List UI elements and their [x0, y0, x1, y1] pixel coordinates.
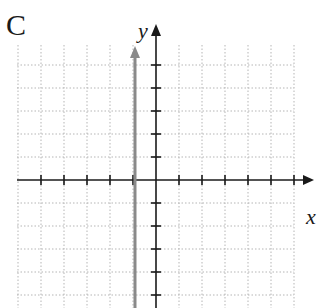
y-axis-arrow-icon: [151, 24, 161, 36]
axes: [17, 24, 314, 308]
coordinate-plane: [0, 0, 322, 308]
panel-label: C: [6, 10, 26, 40]
x-axis-arrow-icon: [303, 175, 314, 185]
plotted-line: [130, 46, 140, 308]
y-axis-label: y: [138, 20, 148, 42]
x-axis-label: x: [306, 206, 316, 228]
line-arrow-up-icon: [130, 46, 140, 58]
